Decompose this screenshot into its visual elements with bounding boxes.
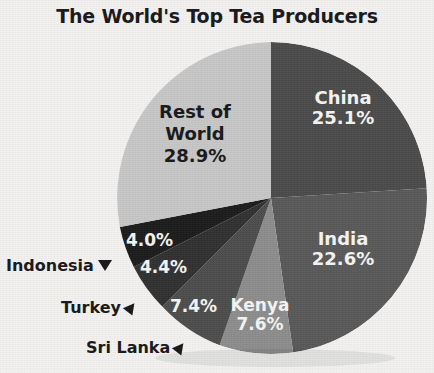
callout-indonesia-label: Indonesia [6,256,94,275]
pie-slice-india[interactable] [271,188,427,352]
callout-sri-lanka-label: Sri Lanka [86,338,170,357]
pie-slice-rest-of-world[interactable] [117,42,271,227]
pie-slice-china[interactable] [271,42,427,198]
pie-slices [117,42,427,354]
pie-drop-shadow [155,349,395,367]
callout-turkey-label: Turkey [61,298,121,317]
triangle-pointer-icon [123,299,139,315]
callout-turkey: Turkey [61,298,137,317]
callout-indonesia: Indonesia [6,256,112,275]
pie-svg [0,0,434,373]
triangle-pointer-icon [172,339,188,355]
pie-chart: China 25.1% India 22.6% Kenya 7.6% Rest … [0,0,434,373]
chart-page: The World's Top Tea Producers [0,0,434,373]
callout-sri-lanka: Sri Lanka [86,338,186,357]
triangle-down-icon [98,260,112,271]
